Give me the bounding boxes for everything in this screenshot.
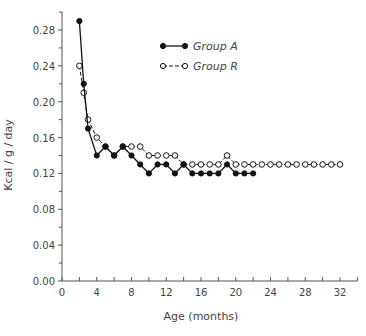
x-tick-label: 4 [94,287,100,298]
filled-circle-marker [146,171,151,176]
open-circle-marker [198,162,204,168]
filled-circle-marker [207,171,212,176]
filled-circle-marker [216,171,221,176]
filled-circle-marker [172,171,177,176]
open-circle-marker [302,162,308,168]
open-circle-marker [77,63,83,69]
open-circle-marker [81,90,87,96]
y-axis-label: Kcal / g / day [2,119,15,191]
open-circle-marker [85,117,91,123]
open-circle-icon [160,63,165,68]
open-circle-marker [129,144,135,150]
filled-circle-icon [182,43,187,48]
legend-label: Group R [193,60,238,73]
y-tick-label: 0.00 [33,276,55,287]
y-tick-label: 0.20 [33,97,55,108]
filled-circle-marker [138,162,143,167]
open-circle-marker [137,144,143,150]
y-tick-label: 0.28 [33,25,55,36]
legend: Group AGroup R [160,40,237,73]
open-circle-marker [268,162,274,168]
x-tick-label: 16 [195,287,208,298]
x-tick-label: 20 [229,287,242,298]
legend-item: Group A [160,40,237,53]
y-tick-label: 0.24 [33,61,55,72]
filled-circle-marker [198,171,203,176]
filled-circle-marker [242,171,247,176]
filled-circle-marker [85,126,90,131]
open-circle-marker [276,162,282,168]
open-circle-marker [207,162,213,168]
filled-circle-marker [233,171,238,176]
filled-circle-marker [120,144,125,149]
filled-circle-marker [181,162,186,167]
y-tick-label: 0.08 [33,204,55,215]
x-tick-label: 8 [128,287,134,298]
open-circle-icon [182,63,187,68]
open-circle-marker [250,162,256,168]
filled-circle-marker [81,81,86,86]
x-tick-label: 24 [264,287,277,298]
filled-circle-marker [77,18,82,23]
x-axis-label: Age (months) [164,310,239,323]
open-circle-marker [329,162,335,168]
legend-item: Group R [160,60,237,73]
filled-circle-marker [164,162,169,167]
filled-circle-marker [190,171,195,176]
open-circle-marker [311,162,317,168]
filled-circle-marker [129,153,134,158]
open-circle-marker [163,153,169,159]
open-circle-marker [216,162,222,168]
legend-label: Group A [193,40,238,53]
open-circle-marker [172,153,178,159]
open-circle-marker [337,162,343,168]
filled-circle-marker [94,153,99,158]
x-tick-label: 0 [59,287,65,298]
filled-circle-marker [155,162,160,167]
series-group-r [77,63,343,167]
y-tick-label: 0.16 [33,133,55,144]
open-circle-marker [233,162,239,168]
x-tick-label: 12 [160,287,173,298]
x-tick-label: 28 [299,287,312,298]
open-circle-marker [146,153,152,159]
x-tick-label: 32 [334,287,347,298]
y-tick-label: 0.12 [33,168,55,179]
chart-container: 0.000.040.080.120.160.200.240.2804812162… [0,0,366,336]
y-tick-label: 0.04 [33,240,55,251]
filled-circle-marker [251,171,256,176]
line-chart: 0.000.040.080.120.160.200.240.2804812162… [0,0,366,336]
filled-circle-marker [224,162,229,167]
open-circle-marker [242,162,248,168]
open-circle-marker [94,135,100,141]
filled-circle-marker [112,153,117,158]
open-circle-marker [285,162,291,168]
open-circle-marker [224,153,230,159]
open-circle-marker [259,162,265,168]
filled-circle-icon [160,43,165,48]
open-circle-marker [320,162,326,168]
filled-circle-marker [103,144,108,149]
open-circle-marker [294,162,300,168]
open-circle-marker [155,153,161,159]
open-circle-marker [190,162,196,168]
